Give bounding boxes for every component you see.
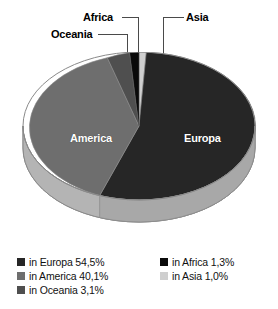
legend-swatch-europa xyxy=(17,258,25,266)
legend-label-america: in America 40,1% xyxy=(29,271,108,282)
legend-label-africa: in Africa 1,3% xyxy=(172,257,234,268)
legend-item-africa[interactable]: in Africa 1,3% xyxy=(160,255,234,269)
legend-column-left: in Europa 54,5% in America 40,1% in Ocea… xyxy=(17,255,108,297)
leader-line-oceania-horizontal xyxy=(98,34,128,35)
legend-label-oceania: in Oceania 3,1% xyxy=(29,285,104,296)
callout-label-africa: Africa xyxy=(83,12,113,23)
legend-label-asia: in Asia 1,0% xyxy=(172,271,228,282)
legend-item-america[interactable]: in America 40,1% xyxy=(17,269,108,283)
slice-label-europa: Europa xyxy=(184,133,221,144)
legend-item-oceania[interactable]: in Oceania 3,1% xyxy=(17,283,108,297)
legend-swatch-asia xyxy=(160,272,168,280)
leader-line-asia-vertical xyxy=(163,17,164,55)
pie-svg xyxy=(21,52,257,236)
callout-label-asia: Asia xyxy=(186,12,208,23)
slice-label-america: America xyxy=(70,133,112,144)
leader-line-africa-horizontal xyxy=(122,17,139,18)
legend-swatch-oceania xyxy=(17,286,25,294)
legend-label-europa: in Europa 54,5% xyxy=(29,257,104,268)
legend-item-europa[interactable]: in Europa 54,5% xyxy=(17,255,108,269)
legend-swatch-america xyxy=(17,272,25,280)
leader-line-asia-horizontal xyxy=(163,17,184,18)
callout-label-oceania: Oceania xyxy=(51,29,92,40)
legend-column-right: in Africa 1,3% in Asia 1,0% xyxy=(160,255,234,283)
legend-swatch-africa xyxy=(160,258,168,266)
chart-legend: in Europa 54,5% in America 40,1% in Ocea… xyxy=(0,255,278,309)
legend-item-asia[interactable]: in Asia 1,0% xyxy=(160,269,234,283)
pie-chart-figure: Africa Asia Oceania xyxy=(0,0,278,309)
pie-graphic xyxy=(21,52,257,236)
